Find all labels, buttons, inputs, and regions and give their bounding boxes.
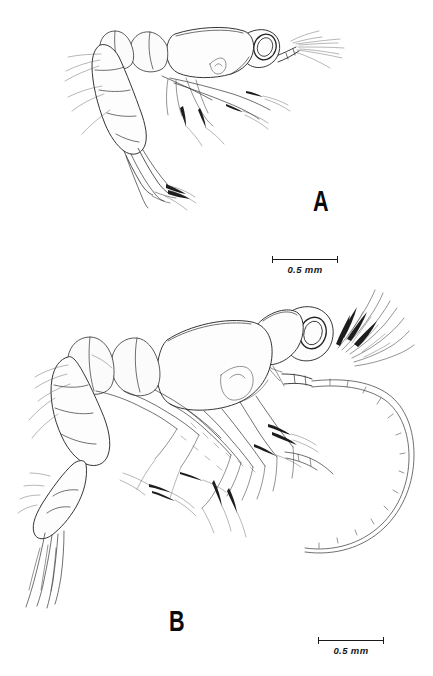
scalebar-b-tick-left	[318, 637, 319, 644]
specimen-b-antennal-peduncle	[282, 374, 312, 386]
specimen-a-drawing	[65, 27, 344, 210]
specimen-illustrations: .ln { fill:none; stroke:#2a2a2a; stroke-…	[0, 0, 433, 676]
specimen-b-drawing	[18, 290, 414, 608]
panel-label-a: A	[313, 186, 329, 216]
scalebar-a-tick-right	[337, 256, 338, 263]
scalebar-b-caption: 0.5 mm	[318, 645, 384, 656]
specimen-a-antennal-setae	[291, 31, 344, 68]
scalebar-a: 0.5 mm	[272, 256, 338, 275]
figure-plate: .ln { fill:none; stroke:#2a2a2a; stroke-…	[0, 0, 433, 676]
scalebar-b-tick-right	[383, 637, 384, 644]
specimen-a-carapace	[166, 27, 253, 77]
panel-label-b: B	[169, 606, 185, 636]
scalebar-b-line	[318, 640, 384, 641]
specimen-a-telson-uropods	[124, 148, 196, 210]
scalebar-b-bar	[318, 637, 384, 644]
scalebar-b: 0.5 mm	[318, 637, 384, 656]
specimen-b-telson	[33, 461, 86, 539]
scalebar-a-tick-left	[272, 256, 273, 263]
specimen-b-thoracic-limbs	[96, 390, 333, 537]
specimen-b-plumose-setae	[336, 290, 414, 366]
scalebar-a-bar	[272, 256, 338, 263]
specimen-b-antennal-flagellum	[305, 379, 414, 553]
scalebar-a-line	[272, 259, 338, 260]
scalebar-a-caption: 0.5 mm	[272, 264, 338, 275]
specimen-b-carapace	[157, 321, 272, 411]
